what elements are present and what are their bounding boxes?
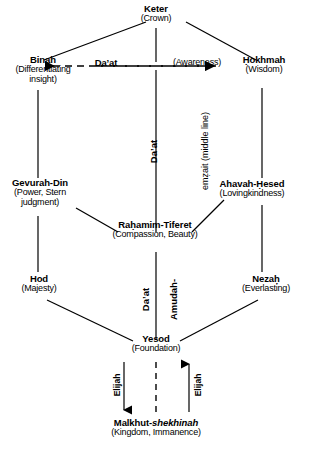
annotation-middle-line-daat: Da’at — [148, 112, 159, 192]
node-hod-gloss: (Majesty) — [6, 284, 72, 294]
annotation-awareness: (Awareness) — [162, 58, 232, 68]
node-rahamim-tiferet[interactable]: Raḥamim-Tiferet (Compassion, Beauty) — [88, 220, 222, 240]
node-gevurah-gloss2: judgment) — [0, 198, 86, 208]
node-binah-gloss2: insight) — [0, 75, 90, 85]
annotation-amudah-word: Amudah- — [168, 264, 179, 336]
node-keter-gloss: (Crown) — [116, 14, 196, 24]
node-hod[interactable]: Hod (Majesty) — [6, 274, 72, 294]
annotation-amudah-word-text: Amudah- — [168, 279, 179, 320]
annotation-awareness-label: (Awareness) — [162, 58, 232, 68]
node-nezah[interactable]: Nezaḥ (Everlasting) — [226, 274, 306, 294]
annotation-amudah-daat-text: Da’at — [140, 288, 151, 311]
node-yesod[interactable]: Yesod (Foundation) — [116, 334, 196, 354]
annotation-middle-line-emzait-text: emẓait (middle line) — [200, 112, 210, 190]
node-hokhmah[interactable]: Ḥokhmah (Wisdom) — [222, 55, 306, 75]
node-hokhmah-gloss: (Wisdom) — [222, 65, 306, 75]
label-elijah-ascent-text: Elijah — [193, 374, 203, 397]
node-malkhut-gloss: (Kingdom, Immanence) — [56, 428, 256, 438]
annotation-daat-label: Da’at — [74, 58, 138, 68]
label-elijah-ascent: Elijah — [193, 359, 203, 411]
annotation-amudah-daat: Da’at — [140, 269, 151, 331]
node-gevurah-din[interactable]: Gevurah-Din (Power, Stern judgment) — [0, 178, 86, 208]
node-nezah-gloss: (Everlasting) — [226, 284, 306, 294]
label-elijah-descent-text: Elijah — [112, 374, 122, 397]
tree-of-life-diagram: Keter (Crown) Binah (Differentiating ins… — [0, 0, 310, 453]
node-keter[interactable]: Keter (Crown) — [116, 4, 196, 24]
annotation-daat: Da’at — [74, 58, 138, 68]
node-malkhut-shekhinah[interactable]: Malkhut-shekhinah (Kingdom, Immanence) — [56, 418, 256, 438]
node-hesed-gloss: (Lovingkindness) — [196, 189, 308, 199]
annotation-middle-line-daat-text: Da’at — [148, 140, 159, 163]
annotation-middle-line-emzait: emẓait (middle line) — [200, 86, 210, 216]
node-yesod-gloss: (Foundation) — [116, 344, 196, 354]
node-tiferet-gloss: (Compassion, Beauty) — [88, 230, 222, 240]
node-ahavah-hesed[interactable]: Ahavah-Ḥesed (Lovingkindness) — [196, 179, 308, 199]
label-elijah-descent: Elijah — [112, 359, 122, 411]
